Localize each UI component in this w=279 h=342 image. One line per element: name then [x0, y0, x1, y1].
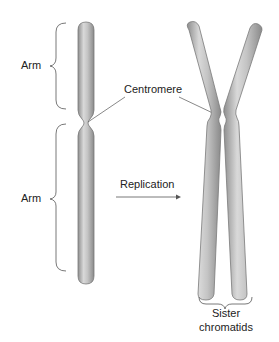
arm-bottom-label: Arm	[21, 193, 41, 204]
replicated-chromosome	[187, 22, 262, 301]
replication-arrow	[116, 195, 181, 200]
centromere-label: Centromere	[124, 84, 182, 95]
arm-top-brace	[50, 23, 66, 109]
arm-bottom-brace	[50, 124, 66, 271]
arm-top-label: Arm	[21, 60, 41, 71]
sister-label-line1: Sister	[212, 308, 240, 319]
replication-label: Replication	[120, 179, 174, 190]
unreplicated-chromosome	[78, 22, 94, 284]
sister-label-line2: chromatids	[199, 322, 253, 333]
diagram-canvas	[0, 0, 279, 342]
